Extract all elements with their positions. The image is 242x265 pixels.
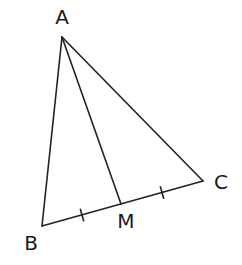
triangle-diagram: A B C M xyxy=(0,0,242,265)
vertex-label-c: C xyxy=(214,170,228,194)
diagram-canvas: A B C M xyxy=(0,0,242,265)
median-am xyxy=(62,37,121,204)
side-ab xyxy=(42,37,62,226)
side-ac xyxy=(62,37,203,181)
midpoint-label-m: M xyxy=(117,209,134,233)
vertex-label-b: B xyxy=(24,231,38,255)
vertex-label-a: A xyxy=(55,5,69,29)
